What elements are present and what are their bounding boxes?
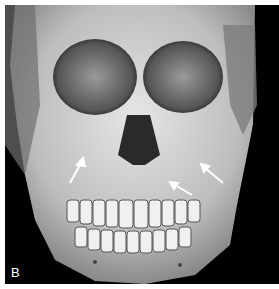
right-orbit	[53, 39, 137, 115]
ct-image-frame: B	[5, 5, 279, 284]
panel-label: B	[11, 265, 20, 280]
skull-rendering	[5, 5, 279, 284]
left-orbit	[143, 41, 223, 113]
